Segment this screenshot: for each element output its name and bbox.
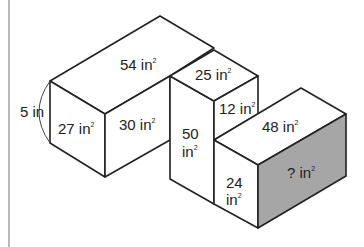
composite-solid-diagram: 5 in 54 in2 27 in2 30 in2 50 in2 25 in2 … — [0, 0, 364, 247]
label-cube-right: 12 in2 — [219, 100, 256, 117]
label-big-top: 54 in2 — [120, 56, 157, 73]
label-cube-top: 25 in2 — [195, 66, 232, 83]
label-low-top: 48 in2 — [262, 118, 299, 135]
dimension-label: 5 in — [20, 103, 44, 120]
label-unknown: ? in2 — [287, 164, 315, 181]
label-big-front: 30 in2 — [119, 116, 156, 133]
label-low-left: 24 — [226, 174, 243, 191]
label-tall-front: 50 — [182, 125, 199, 142]
label-big-left: 27 in2 — [58, 120, 95, 137]
